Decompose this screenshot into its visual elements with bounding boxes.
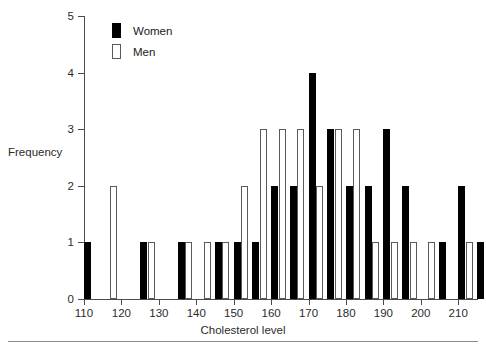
x-tick-label-200: 200 [411, 307, 430, 319]
bar-women-175 [327, 129, 334, 299]
bar-women-125 [140, 242, 147, 299]
x-tick-label-110: 110 [75, 307, 93, 319]
bar-men-195 [410, 242, 417, 299]
bar-men-125 [148, 242, 155, 299]
bar-women-155 [252, 242, 259, 299]
x-tick-120 [121, 300, 122, 305]
bar-men-175 [335, 129, 342, 299]
x-tick-160 [271, 300, 272, 305]
x-tick-210 [458, 300, 459, 305]
bar-men-185 [372, 242, 379, 299]
x-tick-130 [159, 300, 160, 305]
x-tick-150 [234, 300, 235, 305]
x-tick-140 [196, 300, 197, 305]
bar-women-165 [290, 186, 297, 299]
bar-men-135 [185, 242, 192, 299]
y-tick-label-4: 4 [54, 67, 74, 79]
x-axis-title: Cholesterol level [0, 324, 486, 336]
x-tick-180 [346, 300, 347, 305]
bar-women-135 [178, 242, 185, 299]
y-tick-label-5: 5 [54, 10, 74, 22]
x-tick-label-160: 160 [262, 307, 281, 319]
y-tick-label-0: 0 [54, 293, 74, 305]
footer-divider [8, 341, 478, 342]
bar-men-200 [428, 242, 435, 299]
bar-men-150 [241, 186, 248, 299]
bar-men-160 [279, 129, 286, 299]
bar-women-185 [365, 186, 372, 299]
x-tick-label-140: 140 [187, 307, 206, 319]
bar-men-180 [353, 129, 360, 299]
x-tick-label-170: 170 [299, 307, 318, 319]
y-axis-tick-labels: 012345 [52, 0, 74, 349]
x-tick-label-190: 190 [374, 307, 393, 319]
bar-men-210 [466, 242, 473, 299]
y-tick-label-3: 3 [54, 123, 74, 135]
bar-women-170 [309, 73, 316, 299]
bar-women-190 [383, 129, 390, 299]
y-axis-title: Frequency [8, 146, 62, 158]
bar-men-165 [297, 129, 304, 299]
x-axis-line [84, 299, 478, 300]
x-tick-label-210: 210 [449, 307, 468, 319]
x-tick-label-130: 130 [149, 307, 168, 319]
x-tick-110 [84, 300, 85, 305]
bar-women-145 [215, 242, 222, 299]
bar-men-140 [204, 242, 211, 299]
y-tick-label-1: 1 [54, 236, 74, 248]
bar-women-215 [477, 242, 484, 299]
chart-figure: Women Men 012345 11012013014015016017018… [0, 0, 486, 349]
bar-women-210 [458, 186, 465, 299]
bar-women-180 [346, 186, 353, 299]
bar-women-160 [271, 186, 278, 299]
bar-men-155 [260, 129, 267, 299]
x-tick-200 [421, 300, 422, 305]
x-tick-170 [309, 300, 310, 305]
plot-area [84, 16, 478, 299]
x-tick-label-150: 150 [224, 307, 243, 319]
bar-women-150 [234, 242, 241, 299]
bar-women-195 [402, 186, 409, 299]
x-tick-label-180: 180 [336, 307, 355, 319]
x-tick-190 [383, 300, 384, 305]
bar-women-110 [84, 242, 91, 299]
bar-women-205 [439, 242, 446, 299]
bar-men-115 [110, 186, 117, 299]
x-tick-label-120: 120 [112, 307, 131, 319]
bar-men-170 [316, 186, 323, 299]
bar-men-145 [222, 242, 229, 299]
y-tick-label-2: 2 [54, 180, 74, 192]
bar-men-190 [391, 242, 398, 299]
